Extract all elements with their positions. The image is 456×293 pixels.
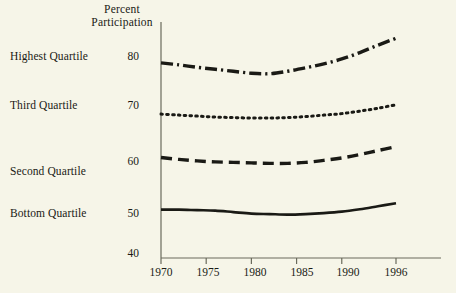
series-line-third-quartile bbox=[161, 105, 396, 118]
x-axis-ticks bbox=[161, 258, 396, 264]
series-line-second-quartile bbox=[161, 147, 396, 164]
series-line-highest-quartile bbox=[161, 38, 396, 74]
plot-area bbox=[0, 0, 456, 293]
series-line-bottom-quartile bbox=[161, 203, 396, 214]
series-group bbox=[161, 38, 396, 214]
axis-lines bbox=[161, 22, 441, 258]
chart-container: Percent Participation Highest Quartile T… bbox=[0, 0, 456, 293]
